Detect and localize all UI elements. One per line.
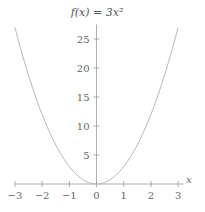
x-tick-label: 2 bbox=[148, 190, 154, 201]
x-axis-label: x bbox=[186, 174, 192, 185]
function-plot: −3−2−10123510152025 f(x) = 3x² x bbox=[0, 0, 205, 212]
x-tick-label: 0 bbox=[93, 190, 99, 201]
y-tick-label: 15 bbox=[77, 92, 90, 103]
y-tick-label: 20 bbox=[77, 63, 90, 74]
x-tick-label: −1 bbox=[62, 190, 77, 201]
chart-title: f(x) = 3x² bbox=[70, 6, 124, 19]
y-tick-label: 5 bbox=[83, 150, 89, 161]
y-tick-label: 25 bbox=[77, 34, 90, 45]
x-tick-label: −2 bbox=[35, 190, 50, 201]
x-tick-label: −3 bbox=[8, 190, 23, 201]
axes: −3−2−10123510152025 bbox=[8, 25, 184, 202]
x-tick-label: 1 bbox=[121, 190, 127, 201]
y-tick-label: 10 bbox=[77, 121, 90, 132]
x-tick-label: 3 bbox=[175, 190, 181, 201]
